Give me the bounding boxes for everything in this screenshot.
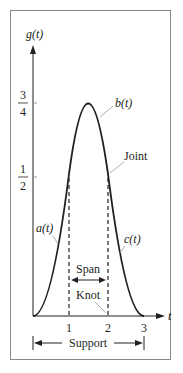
support-label: Support (69, 336, 108, 350)
support-arrow-right-icon (135, 340, 143, 346)
x-tick-1: 1 (66, 321, 72, 335)
b-leader-line (100, 106, 113, 117)
a-curve-label: a(t) (36, 221, 53, 235)
b-curve-label: b(t) (115, 96, 132, 110)
joint-leader-line (110, 162, 124, 173)
span-arrow-left-icon (71, 277, 78, 283)
support-arrow-left-icon (34, 340, 42, 346)
knot-leader-line (95, 302, 106, 313)
y-tick-3-4-den: 4 (20, 105, 26, 119)
x-axis-label: t (168, 309, 172, 323)
knot-label: Knot (76, 288, 101, 302)
span-label: Span (76, 262, 100, 276)
frame-border (11, 11, 171, 360)
a-leader-line (53, 236, 58, 244)
y-axis-arrow-icon (30, 45, 36, 54)
y-axis-label: g(t) (26, 27, 43, 41)
b-spline-diagram: g(t) t 3 4 1 2 1 2 3 b(t) Joint a(t) c(t… (0, 0, 183, 373)
joint-label: Joint (124, 149, 148, 163)
x-tick-3: 3 (141, 321, 147, 335)
span-arrow-right-icon (99, 277, 106, 283)
y-tick-3-4-num: 3 (20, 88, 26, 102)
x-axis-arrow-icon (156, 313, 165, 319)
b-spline-curve (33, 104, 144, 317)
x-tick-2: 2 (105, 321, 111, 335)
y-tick-1-2-den: 2 (20, 179, 26, 193)
y-tick-1-2-num: 1 (20, 162, 26, 176)
c-curve-label: c(t) (124, 232, 141, 246)
